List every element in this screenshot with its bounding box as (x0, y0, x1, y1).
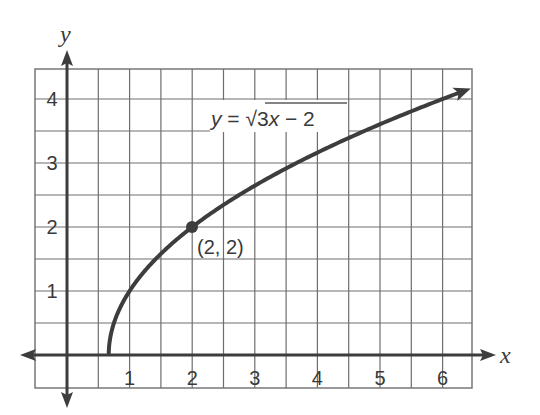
x-tick-label: 5 (374, 367, 385, 389)
equation-radicand-num: 3 (257, 107, 269, 130)
y-tick-label: 1 (46, 280, 57, 302)
x-axis: x (20, 342, 511, 368)
x-tick-label: 6 (437, 367, 448, 389)
x-axis-label: x (499, 342, 511, 368)
y-tick-label: 3 (46, 152, 57, 174)
graph-figure: x y 123456 1234 (2, 2) y = √3x − 2 (0, 0, 540, 415)
x-tick-label: 3 (249, 367, 260, 389)
y-axis-label: y (58, 21, 71, 47)
y-axis: y (58, 21, 73, 408)
equation-sqrt: √ (245, 107, 257, 130)
x-tick-label: 1 (124, 367, 135, 389)
x-tick-label: 4 (312, 367, 323, 389)
equation-equals: = (222, 107, 246, 130)
equation-label: y = √3x − 2 (209, 107, 315, 130)
y-tick-label: 2 (46, 216, 57, 238)
point-marker (186, 221, 198, 233)
point-label: (2, 2) (197, 236, 244, 258)
x-tick-label: 2 (187, 367, 198, 389)
y-tick-label: 4 (46, 88, 57, 110)
equation-radicand-rest: − 2 (279, 107, 315, 130)
